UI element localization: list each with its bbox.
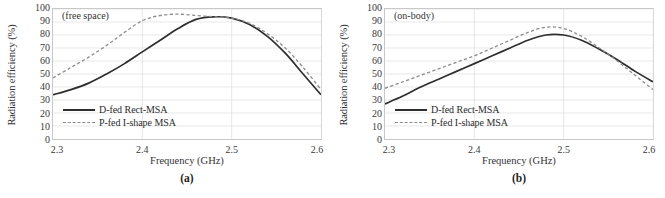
y-tick-label: 0: [45, 135, 50, 145]
y-tick-label: 60: [40, 56, 50, 66]
y-tick-label: 70: [40, 43, 50, 53]
y-axis-tick-labels-a: 0102030405060708090100: [24, 4, 50, 144]
x-tick-label: 2.3: [51, 144, 64, 155]
x-axis-title-a: Frequency (GHz): [52, 155, 322, 166]
y-tick-label: 40: [40, 82, 50, 92]
y-tick-label: 20: [40, 109, 50, 119]
legend-item: D-fed Rect-MSA: [63, 103, 176, 116]
legend-swatch-solid-icon: [395, 106, 427, 114]
x-axis-title-b: Frequency (GHz): [384, 155, 654, 166]
y-tick-label: 80: [372, 29, 382, 39]
y-tick-label: 30: [40, 95, 50, 105]
y-tick-label: 0: [377, 135, 382, 145]
y-tick-label: 60: [372, 56, 382, 66]
legend-a: D-fed Rect-MSAP-fed I-shape MSA: [63, 103, 176, 129]
subcaption-a: (a): [52, 172, 322, 184]
y-tick-label: 50: [40, 69, 50, 79]
x-tick-label: 2.3: [383, 144, 396, 155]
y-tick-label: 50: [372, 69, 382, 79]
plot-annotation-a: (free space): [62, 10, 109, 21]
legend-label: P-fed I-shape MSA: [431, 116, 508, 129]
legend-b: D-fed Rect-MSAP-fed I-shape MSA: [395, 103, 508, 129]
plot-annotation-b: (on-body): [394, 10, 434, 21]
y-tick-label: 10: [40, 122, 50, 132]
y-tick-label: 90: [372, 16, 382, 26]
y-axis-title-a: Radiation efficiency (%): [6, 0, 20, 150]
y-tick-label: 90: [40, 16, 50, 26]
legend-item: D-fed Rect-MSA: [395, 103, 508, 116]
chart-panel-a: Radiation efficiency (%) 010203040506070…: [0, 0, 332, 198]
y-tick-label: 40: [372, 82, 382, 92]
x-tick-label: 2.5: [225, 144, 238, 155]
legend-swatch-dashed-icon: [395, 119, 427, 127]
x-tick-label: 2.6: [311, 144, 324, 155]
x-tick-label: 2.4: [136, 144, 149, 155]
y-tick-label: 20: [372, 109, 382, 119]
legend-swatch-dashed-icon: [63, 119, 95, 127]
y-tick-label: 10: [372, 122, 382, 132]
x-tick-label: 2.5: [557, 144, 570, 155]
subcaption-b: (b): [384, 172, 654, 184]
chart-panel-b: Radiation efficiency (%) 010203040506070…: [332, 0, 664, 198]
figure-two-panel-line-charts: Radiation efficiency (%) 010203040506070…: [0, 0, 665, 198]
y-tick-label: 100: [367, 3, 382, 13]
series-line: [53, 14, 321, 89]
series-line: [53, 17, 321, 95]
y-axis-tick-labels-b: 0102030405060708090100: [356, 4, 382, 144]
series-line: [385, 27, 653, 90]
y-tick-label: 70: [372, 43, 382, 53]
series-line: [385, 34, 653, 104]
legend-item: P-fed I-shape MSA: [395, 116, 508, 129]
x-tick-label: 2.4: [468, 144, 481, 155]
legend-label: D-fed Rect-MSA: [431, 103, 499, 116]
y-tick-label: 30: [372, 95, 382, 105]
legend-label: P-fed I-shape MSA: [99, 116, 176, 129]
legend-item: P-fed I-shape MSA: [63, 116, 176, 129]
legend-label: D-fed Rect-MSA: [99, 103, 167, 116]
y-axis-title-b: Radiation efficiency (%): [338, 0, 352, 150]
legend-swatch-solid-icon: [63, 106, 95, 114]
x-tick-label: 2.6: [643, 144, 656, 155]
y-tick-label: 100: [35, 3, 50, 13]
y-tick-label: 80: [40, 29, 50, 39]
